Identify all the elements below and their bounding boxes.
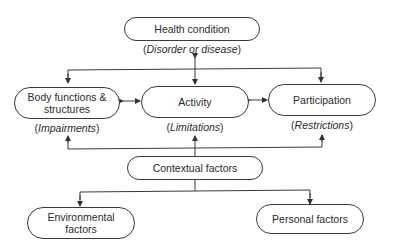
node-label: Activity (178, 96, 211, 108)
node-sublabel-body-functions: (Impairments) (14, 122, 120, 134)
node-personal-factors: Personal factors (256, 204, 364, 234)
node-label: Personal factors (272, 213, 348, 225)
node-sublabel-health-condition: (Disorder or disease) (124, 43, 260, 55)
node-sublabel-participation: (Restrictions) (268, 119, 376, 131)
node-label: Participation (293, 94, 351, 106)
node-environmental-factors: Environmental factors (27, 207, 135, 239)
node-participation: Participation (268, 84, 376, 116)
node-body-functions: Body functions & structures (14, 87, 120, 119)
node-label: Health condition (154, 23, 229, 35)
node-contextual-factors: Contextual factors (127, 156, 263, 180)
node-label: Environmental factors (43, 211, 119, 235)
node-label: Body functions & structures (27, 91, 107, 115)
node-health-condition: Health condition (124, 17, 260, 41)
node-label: Contextual factors (153, 162, 238, 174)
node-sublabel-activity: (Limitations) (141, 121, 249, 133)
node-activity: Activity (141, 86, 249, 118)
